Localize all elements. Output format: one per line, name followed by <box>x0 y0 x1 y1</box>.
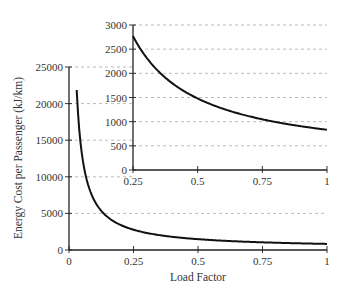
y-tick-label: 5000 <box>41 207 64 219</box>
y-tick-label: 2500 <box>105 43 128 55</box>
x-tick-label: 0 <box>66 255 72 267</box>
x-tick-label: 0.75 <box>253 175 273 187</box>
x-tick-label: 0.75 <box>253 255 273 267</box>
y-tick-label: 0 <box>58 244 64 256</box>
y-tick-label: 15000 <box>36 134 64 146</box>
x-tick-label: 0.5 <box>191 255 205 267</box>
x-tick-label: 1 <box>324 255 330 267</box>
chart: 050001000015000200002500000.250.50.75105… <box>0 0 348 301</box>
y-tick-label: 1500 <box>105 92 128 104</box>
y-tick-label: 20000 <box>36 98 64 110</box>
y-tick-label: 10000 <box>36 171 64 183</box>
y-tick-label: 1000 <box>105 116 128 128</box>
x-tick-label: 0.25 <box>124 255 144 267</box>
y-tick-label: 500 <box>111 140 128 152</box>
y-tick-label: 2000 <box>105 67 128 79</box>
x-tick-label: 0.5 <box>191 175 205 187</box>
x-axis-label: Load Factor <box>170 271 226 283</box>
x-tick-label: 1 <box>324 175 330 187</box>
y-axis-label: Energy Cost per Passenger (kJ/km) <box>12 77 25 239</box>
y-tick-label: 25000 <box>36 61 64 73</box>
x-tick-label: 0.25 <box>123 175 143 187</box>
inset-background <box>133 23 333 188</box>
y-tick-label: 3000 <box>105 19 128 31</box>
